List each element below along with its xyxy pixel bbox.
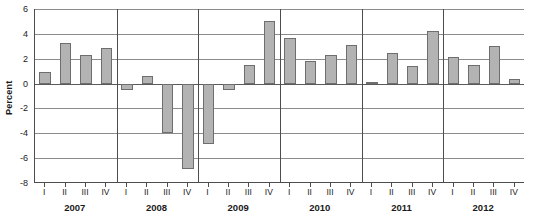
bar <box>468 65 479 84</box>
y-tick-label: 4 <box>2 29 28 38</box>
bar <box>489 46 500 83</box>
x-tick-label: III <box>238 188 258 197</box>
bar <box>305 61 316 83</box>
year-label: 2008 <box>127 203 187 213</box>
x-tick-label: III <box>75 188 95 197</box>
y-tick-label: 0 <box>2 79 28 88</box>
bar <box>142 76 153 83</box>
bar <box>39 72 50 83</box>
y-tick-label: -8 <box>2 179 28 188</box>
x-tick-label: III <box>483 188 503 197</box>
year-separator <box>280 9 281 182</box>
bar <box>244 65 255 84</box>
x-tick-label: IV <box>259 188 279 197</box>
x-tick-label: I <box>116 188 136 197</box>
x-tick-label: II <box>381 188 401 197</box>
bar <box>448 57 459 83</box>
bar <box>101 48 112 84</box>
x-tick-label: III <box>157 188 177 197</box>
y-tick-label: 6 <box>2 5 28 14</box>
year-label: 2010 <box>290 203 350 213</box>
bar <box>223 84 234 90</box>
x-tick-label: III <box>402 188 422 197</box>
bar <box>182 84 193 170</box>
bar <box>264 21 275 83</box>
y-tick-label: 2 <box>2 54 28 63</box>
bar <box>203 84 214 145</box>
y-tick-label: -6 <box>2 154 28 163</box>
x-tick-label: II <box>463 188 483 197</box>
x-tick-label: IV <box>177 188 197 197</box>
y-tick-label: -2 <box>2 104 28 113</box>
bar <box>346 45 357 84</box>
year-separator <box>198 9 199 182</box>
x-tick-label: II <box>218 188 238 197</box>
year-label: 2012 <box>453 203 513 213</box>
year-separator <box>117 9 118 182</box>
bar <box>60 43 71 84</box>
year-separator <box>362 9 363 182</box>
x-tick-label: I <box>279 188 299 197</box>
year-separator <box>443 9 444 182</box>
bar <box>121 84 132 90</box>
bar-chart: Percent 6420-2-4-6-8 IIIIIIIVIIIIIIIVIII… <box>0 0 534 224</box>
bar <box>387 53 398 84</box>
x-tick-label: I <box>443 188 463 197</box>
bar <box>366 82 377 84</box>
bar <box>162 84 173 134</box>
plot-area <box>34 9 524 183</box>
bar <box>407 66 418 83</box>
bar <box>427 31 438 83</box>
year-label: 2007 <box>45 203 105 213</box>
x-tick-label: IV <box>340 188 360 197</box>
x-tick-label: II <box>55 188 75 197</box>
x-tick-label: IV <box>422 188 442 197</box>
year-label: 2009 <box>208 203 268 213</box>
x-tick-label: IV <box>95 188 115 197</box>
x-tick-label: I <box>361 188 381 197</box>
bar <box>80 55 91 84</box>
x-tick-label: I <box>34 188 54 197</box>
y-tick-label: -4 <box>2 129 28 138</box>
x-tick-label: II <box>300 188 320 197</box>
bar <box>325 55 336 84</box>
x-tick-label: III <box>320 188 340 197</box>
x-tick-label: II <box>136 188 156 197</box>
x-tick-label: IV <box>504 188 524 197</box>
y-axis-title: Percent <box>2 56 16 140</box>
year-label: 2011 <box>372 203 432 213</box>
bar <box>509 79 520 84</box>
bar <box>284 38 295 84</box>
x-tick-label: I <box>198 188 218 197</box>
